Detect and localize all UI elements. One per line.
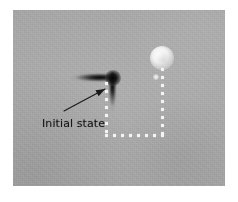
guide-dot xyxy=(145,134,148,137)
guide-dot xyxy=(105,130,108,133)
guide-dot xyxy=(161,124,164,127)
guide-dot xyxy=(161,108,164,111)
guide-dot xyxy=(105,90,108,93)
guide-dot xyxy=(161,134,164,137)
guide-dot xyxy=(121,134,124,137)
arrow-shaft xyxy=(64,89,105,111)
guide-dot xyxy=(105,134,108,137)
micrograph-figure: Initial state xyxy=(0,0,238,202)
guide-dot xyxy=(161,84,164,87)
guide-dot xyxy=(105,82,108,85)
bright-speck-feature xyxy=(153,74,159,80)
guide-dot xyxy=(129,134,132,137)
blob-texture xyxy=(153,49,171,67)
guide-dot xyxy=(113,134,116,137)
bright-blob-feature xyxy=(150,46,174,70)
guide-dot xyxy=(161,68,164,71)
guide-dot xyxy=(161,76,164,79)
guide-dot xyxy=(161,92,164,95)
guide-dot xyxy=(105,122,108,125)
plate-grain-overlay xyxy=(13,10,225,186)
annotation-arrow xyxy=(13,10,225,186)
guide-dot xyxy=(137,134,140,137)
guide-dot xyxy=(153,134,156,137)
plate-shading-overlay xyxy=(13,10,225,186)
arrow-head xyxy=(95,89,105,96)
micrograph-plate: Initial state xyxy=(13,10,225,186)
guide-dot xyxy=(161,100,164,103)
initial-state-label: Initial state xyxy=(42,117,105,130)
guide-dot xyxy=(161,116,164,119)
guide-dot xyxy=(105,114,108,117)
guide-dot xyxy=(105,98,108,101)
guide-dot xyxy=(105,106,108,109)
